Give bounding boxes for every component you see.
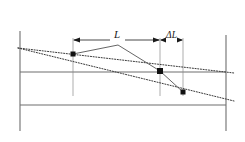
diagram-canvas: L ΔL [0,0,245,142]
dimension-deltaL-label: ΔL [165,30,177,40]
marker-b [157,68,163,74]
technical-diagram: L ΔL [0,0,245,142]
marker-c [181,90,186,95]
dimension-L-label: L [113,28,120,40]
canvas-background [0,0,245,142]
marker-a [71,52,76,57]
